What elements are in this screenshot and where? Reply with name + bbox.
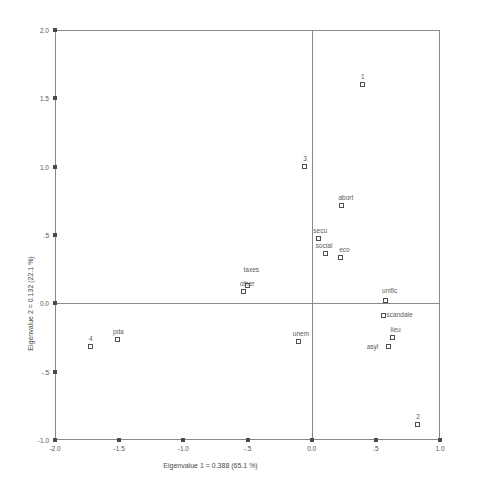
x-tick-label: 0.0 [307, 445, 316, 452]
y-tick-label: 2.0 [40, 27, 49, 34]
data-point-marker [415, 422, 420, 427]
data-point-label: scandale [387, 311, 413, 318]
data-point-label: unem [293, 330, 309, 337]
x-tick-label: -.5 [244, 445, 252, 452]
x-axis-title-text: Eigenvalue 1 = 0.388 (65.1 %) [163, 462, 257, 469]
data-point-marker [241, 289, 246, 294]
x-tick [438, 438, 442, 442]
data-point-label: asyl [367, 343, 379, 350]
data-point-marker [323, 251, 328, 256]
y-tick [53, 96, 57, 100]
y-tick-label: -1.0 [38, 437, 49, 444]
x-tick [117, 438, 121, 442]
plot-area: -2.0-1.5-1.0-.50.0.51.0 2.01.51.0.50.0-.… [55, 30, 440, 440]
data-point-marker [88, 344, 93, 349]
data-point-marker [316, 236, 321, 241]
x-tick-label: -1.0 [178, 445, 189, 452]
x-tick [246, 438, 250, 442]
data-point-label: 2 [416, 413, 420, 420]
x-tick [181, 438, 185, 442]
y-tick-label: 1.0 [40, 163, 49, 170]
data-point-marker [360, 82, 365, 87]
x-tick-label: 1.0 [435, 445, 444, 452]
y-tick [53, 370, 57, 374]
y-tick [53, 233, 57, 237]
data-point-marker [386, 344, 391, 349]
x-axis-title: Eigenvalue 1 = 0.388 (65.1 %) [0, 462, 481, 469]
y-tick-label: 0.0 [40, 300, 49, 307]
y-tick [53, 301, 57, 305]
data-point-marker [338, 255, 343, 260]
data-point-marker [296, 339, 301, 344]
data-point-marker [302, 164, 307, 169]
y-tick-label: -.5 [41, 368, 49, 375]
data-point-label: social [316, 242, 333, 249]
data-point-marker [381, 313, 386, 318]
data-point-label: secu [313, 227, 327, 234]
y-tick-label: .5 [44, 232, 49, 239]
y-tick-label: 1.5 [40, 95, 49, 102]
data-point-label: pda [113, 328, 124, 335]
data-point-marker [115, 337, 120, 342]
plot-frame [55, 30, 440, 440]
data-point-label: taxes [244, 266, 260, 273]
x-tick [310, 438, 314, 442]
data-point-marker [383, 298, 388, 303]
data-point-label: 1 [361, 73, 365, 80]
data-point-label: eco [339, 246, 349, 253]
data-point-label: 3 [303, 155, 307, 162]
horizontal-zero-axis-line [55, 303, 440, 304]
vertical-zero-axis-line [312, 30, 313, 440]
x-tick-label: .5 [373, 445, 378, 452]
data-point-label: abort [338, 194, 353, 201]
y-tick [53, 165, 57, 169]
data-point-label: lieu [391, 326, 401, 333]
data-point-marker [339, 203, 344, 208]
y-tick [53, 28, 57, 32]
data-point-label: 4 [89, 335, 93, 342]
data-point-marker [390, 335, 395, 340]
x-tick-label: -1.5 [114, 445, 125, 452]
y-axis-title: Eigenvalue 2 = 0.132 (22.1 %) [27, 224, 34, 384]
data-point-label: unific [382, 287, 397, 294]
data-point-label: other [240, 280, 255, 287]
y-tick [53, 438, 57, 442]
x-tick [374, 438, 378, 442]
x-tick-label: -2.0 [49, 445, 60, 452]
